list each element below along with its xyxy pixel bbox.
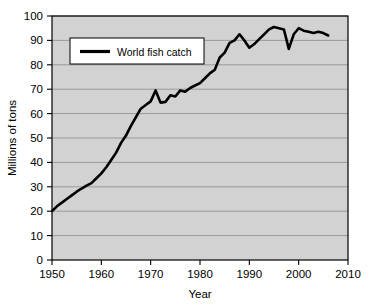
y-tick-label-30: 30 bbox=[30, 181, 43, 193]
x-tick-label-1990: 1990 bbox=[237, 268, 263, 280]
y-tick-label-60: 60 bbox=[30, 108, 43, 120]
y-tick-label-50: 50 bbox=[30, 132, 43, 144]
y-tick-label-20: 20 bbox=[30, 205, 43, 217]
y-tick-label-40: 40 bbox=[30, 156, 43, 168]
y-tick-label-100: 100 bbox=[24, 10, 43, 22]
x-tick-label-2000: 2000 bbox=[286, 268, 312, 280]
chart-container: 0102030405060708090100 19501960197019801… bbox=[0, 0, 380, 307]
y-axis-title: Millions of tons bbox=[6, 100, 18, 176]
legend-label-world-fish-catch: World fish catch bbox=[117, 46, 192, 58]
y-tick-label-10: 10 bbox=[30, 230, 43, 242]
x-tick-label-1980: 1980 bbox=[187, 268, 213, 280]
legend: World fish catch bbox=[70, 38, 204, 64]
line-chart: 0102030405060708090100 19501960197019801… bbox=[0, 0, 380, 307]
x-axis-title: Year bbox=[188, 288, 211, 300]
y-tick-label-80: 80 bbox=[30, 59, 43, 71]
y-tick-label-90: 90 bbox=[30, 34, 43, 46]
x-tick-label-2010: 2010 bbox=[335, 268, 361, 280]
y-tick-label-0: 0 bbox=[37, 254, 43, 266]
x-tick-label-1970: 1970 bbox=[138, 268, 164, 280]
y-tick-label-70: 70 bbox=[30, 83, 43, 95]
x-tick-label-1950: 1950 bbox=[39, 268, 65, 280]
x-tick-label-1960: 1960 bbox=[89, 268, 115, 280]
